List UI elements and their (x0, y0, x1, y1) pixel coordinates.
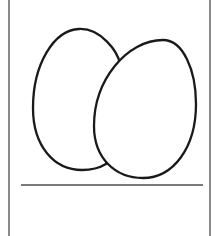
answer-writing-line (21, 184, 203, 186)
answer-area[interactable] (21, 190, 203, 222)
